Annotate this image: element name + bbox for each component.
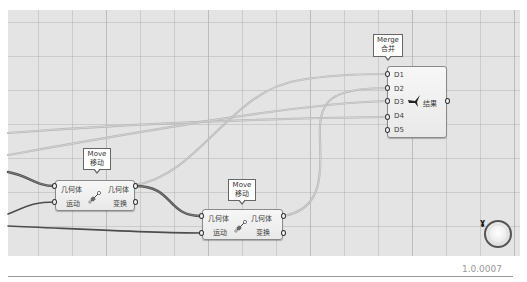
merge-input-d2-grip[interactable]	[385, 85, 390, 91]
merge-input-d1-grip[interactable]	[385, 71, 390, 77]
move2-tooltip-subtitle: 移动	[231, 190, 253, 199]
move1-output-transform[interactable]: 变换	[113, 198, 127, 208]
merge-input-d4-grip[interactable]	[385, 114, 390, 120]
move2-tooltip-title: Move	[231, 181, 253, 190]
move2-input-geometry-grip[interactable]	[199, 213, 204, 219]
move2-output-transform-grip[interactable]	[281, 230, 286, 236]
merge-input-d1[interactable]: D1	[394, 71, 404, 79]
status-divider	[8, 276, 513, 277]
move2-output-transform[interactable]: 变换	[256, 227, 270, 237]
merge-tooltip-subtitle: 合并	[376, 45, 400, 54]
merge-input-d4[interactable]: D4	[394, 112, 404, 120]
merge-input-d5[interactable]: D5	[394, 126, 404, 134]
merge-input-d2[interactable]: D2	[394, 85, 404, 93]
move1-input-motion[interactable]: 运动	[66, 198, 80, 208]
move1-tooltip: Move 移动	[83, 148, 111, 170]
navigation-wheel-icon[interactable]	[484, 220, 512, 248]
move2-output-geometry-grip[interactable]	[281, 213, 286, 219]
merge-input-d3-grip[interactable]	[385, 98, 390, 104]
merge-tooltip: Merge 合并	[373, 34, 403, 57]
merge-tooltip-title: Merge	[376, 36, 400, 45]
move2-component[interactable]: 几何体 运动 几何体 变换	[202, 209, 283, 240]
merge-input-d3[interactable]: D3	[394, 98, 404, 106]
move1-input-geometry[interactable]: 几何体	[61, 184, 82, 194]
merge-output-result[interactable]: 结果	[423, 98, 437, 108]
move2-input-motion-grip[interactable]	[199, 230, 204, 236]
move1-output-geometry[interactable]: 几何体	[108, 184, 129, 194]
move-icon	[88, 190, 102, 204]
move1-output-transform-grip[interactable]	[133, 199, 138, 205]
move1-tooltip-title: Move	[86, 150, 108, 159]
merge-output-grip[interactable]	[445, 98, 450, 104]
move-icon	[234, 219, 248, 233]
move1-tooltip-subtitle: 移动	[86, 159, 108, 168]
move2-output-geometry[interactable]: 几何体	[251, 213, 272, 223]
merge-component[interactable]: D1 D2 D3 D4 D5 结果	[387, 66, 447, 138]
move1-component[interactable]: 几何体 运动 几何体 变换	[55, 180, 135, 211]
merge-input-d5-grip[interactable]	[385, 127, 390, 133]
move1-input-geometry-grip[interactable]	[52, 183, 57, 189]
move2-tooltip: Move 移动	[228, 179, 256, 201]
merge-icon	[408, 95, 422, 107]
move1-output-geometry-grip[interactable]	[133, 183, 138, 189]
move2-input-geometry[interactable]: 几何体	[208, 213, 229, 223]
move2-input-motion[interactable]: 运动	[213, 227, 227, 237]
version-label: 1.0.0007	[462, 264, 502, 274]
move1-input-motion-grip[interactable]	[52, 199, 57, 205]
navigation-marker-icon: ɣ	[480, 218, 485, 227]
